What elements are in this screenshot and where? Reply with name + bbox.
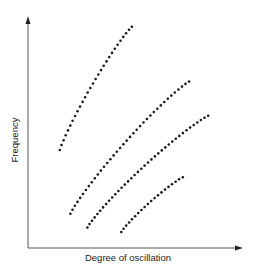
data-point <box>64 134 67 137</box>
x-axis-arrow-icon <box>235 246 243 251</box>
data-point <box>106 162 109 165</box>
data-point <box>116 150 119 153</box>
data-point <box>76 110 79 113</box>
data-point <box>79 105 82 108</box>
data-point <box>168 143 171 146</box>
data-point <box>131 218 134 221</box>
data-point <box>125 224 128 227</box>
data-point <box>108 56 111 59</box>
data-point <box>114 193 117 196</box>
data-point <box>122 143 125 146</box>
data-point <box>182 176 185 179</box>
data-point <box>196 121 199 124</box>
data-point <box>91 219 94 222</box>
data-point <box>122 36 125 39</box>
data-point <box>130 177 133 180</box>
chart-canvas <box>0 0 256 271</box>
data-point <box>132 132 135 135</box>
data-point <box>111 52 114 55</box>
data-point <box>139 125 142 128</box>
data-point <box>128 221 131 224</box>
data-point <box>62 139 65 142</box>
data-point <box>59 149 62 152</box>
data-point <box>120 187 123 190</box>
data-point <box>119 147 122 150</box>
y-axis-arrow-icon <box>26 16 31 24</box>
data-point <box>147 203 150 206</box>
data-point <box>181 85 184 88</box>
data-point <box>84 96 87 99</box>
data-point <box>154 155 157 158</box>
data-point <box>86 226 89 229</box>
data-point <box>175 137 178 140</box>
data-point <box>161 149 164 152</box>
data-point <box>69 124 72 127</box>
data-point <box>153 197 156 200</box>
data-point <box>74 205 77 208</box>
data-point <box>71 209 74 212</box>
data-point <box>163 101 166 104</box>
data-point <box>156 107 159 110</box>
data-point <box>94 78 97 81</box>
x-axis-label: Degree of oscillation <box>0 252 256 263</box>
data-point <box>167 98 170 101</box>
data-point <box>143 164 146 167</box>
data-point <box>188 80 191 83</box>
data-point <box>146 118 149 121</box>
data-point <box>102 206 105 209</box>
data-point <box>174 180 177 183</box>
data-point <box>134 215 137 218</box>
data-point <box>117 190 120 193</box>
data-point <box>100 69 103 72</box>
data-point <box>89 87 92 90</box>
y-axis-label: Frequency <box>9 118 20 163</box>
data-point <box>192 124 195 127</box>
data-point <box>153 111 156 114</box>
data-point <box>60 144 63 147</box>
data-point <box>200 119 203 122</box>
data-point <box>97 73 100 76</box>
data-point <box>102 64 105 67</box>
data-point <box>125 139 128 142</box>
data-point <box>105 60 108 63</box>
data-point <box>103 166 106 169</box>
data-point <box>133 174 136 177</box>
data-point <box>131 26 134 29</box>
data-point <box>99 209 102 212</box>
data-point <box>114 48 117 51</box>
data-point <box>85 189 88 192</box>
data-points <box>59 26 210 234</box>
data-point <box>96 213 99 216</box>
data-point <box>137 171 140 174</box>
data-point <box>111 196 114 199</box>
data-point <box>76 201 79 204</box>
data-point <box>170 94 173 97</box>
data-point <box>142 121 145 124</box>
data-point <box>171 140 174 143</box>
data-point <box>124 183 127 186</box>
data-point <box>135 128 138 131</box>
data-point <box>160 191 163 194</box>
data-point <box>88 223 91 226</box>
data-point <box>71 120 74 123</box>
data-point <box>69 213 72 216</box>
data-point <box>109 158 112 161</box>
data-point <box>203 116 206 119</box>
data-point <box>81 101 84 104</box>
data-point <box>105 203 108 206</box>
data-point <box>164 146 167 149</box>
data-point <box>67 129 70 132</box>
data-point <box>147 161 150 164</box>
data-point <box>100 169 103 172</box>
data-point <box>74 115 77 118</box>
data-point <box>92 82 95 85</box>
data-point <box>86 91 89 94</box>
data-point <box>88 185 91 188</box>
data-point <box>157 152 160 155</box>
data-point <box>128 29 131 32</box>
data-point <box>140 167 143 170</box>
data-point <box>79 197 82 200</box>
data-point <box>167 186 170 189</box>
data-point <box>160 104 163 107</box>
data-point <box>178 178 181 181</box>
